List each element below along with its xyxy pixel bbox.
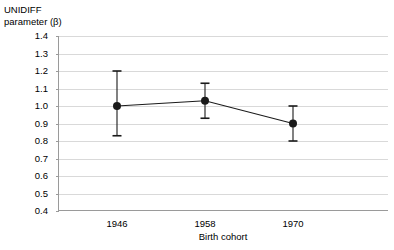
x-axis-tick-label: 1958 bbox=[175, 219, 235, 229]
x-axis-tick-label: 1946 bbox=[87, 219, 147, 229]
plot-area: 1.41.31.21.11.00.90.80.70.60.50.4 194619… bbox=[58, 36, 388, 211]
y-axis-tick-label: 1.4 bbox=[2, 31, 48, 41]
y-axis-tick-label: 1.3 bbox=[2, 49, 48, 59]
x-axis-title: Birth cohort bbox=[58, 231, 388, 242]
y-axis-tick-label: 0.6 bbox=[2, 171, 48, 181]
y-axis-tick-label: 0.7 bbox=[2, 154, 48, 164]
x-axis-tick-label: 1970 bbox=[263, 219, 323, 229]
y-axis-tick-label: 0.5 bbox=[2, 189, 48, 199]
y-axis-title-line-1: UNIDIFF bbox=[4, 4, 41, 15]
y-axis-tick-label: 0.4 bbox=[2, 206, 48, 216]
y-axis-tick-label: 0.9 bbox=[2, 119, 48, 129]
unidiff-parameter-chart: UNIDIFFparameter (β) 1.41.31.21.11.00.90… bbox=[0, 0, 394, 250]
y-axis-tick-label: 1.2 bbox=[2, 66, 48, 76]
y-axis-tick-label: 0.8 bbox=[2, 136, 48, 146]
data-series-layer bbox=[59, 36, 389, 211]
y-axis-title: UNIDIFFparameter (β) bbox=[4, 4, 62, 27]
data-point-marker bbox=[201, 97, 209, 105]
y-axis-title-line-2: parameter (β) bbox=[4, 16, 62, 27]
data-point-marker bbox=[289, 120, 297, 128]
y-axis-tick-label: 1.0 bbox=[2, 101, 48, 111]
y-axis-tick-mark bbox=[56, 211, 59, 212]
y-axis-tick-label: 1.1 bbox=[2, 84, 48, 94]
data-point-marker bbox=[113, 102, 121, 110]
